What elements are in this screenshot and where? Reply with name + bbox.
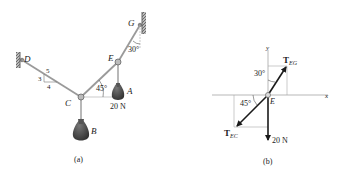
ring-e	[115, 59, 121, 65]
cable-dc	[22, 60, 81, 97]
weight-a-value: 20 N	[110, 102, 126, 111]
x-axis-label: x	[324, 92, 329, 100]
slope-rise-label: 3	[38, 75, 42, 83]
wall-g-support	[138, 12, 146, 34]
force-t-eg-label: TEG	[283, 55, 298, 66]
label-a: A	[126, 86, 133, 96]
angle-ec-b-label: 45°	[240, 99, 251, 108]
caption-a: (a)	[74, 155, 83, 164]
weight-b	[73, 118, 89, 141]
label-e: E	[107, 53, 114, 63]
ring-c	[78, 94, 84, 100]
force-weight-label: 20 N	[272, 136, 288, 145]
weight-a	[112, 82, 124, 100]
angle-ce-label: 45°	[96, 84, 107, 93]
slope-triangle: 5 3 4	[38, 67, 57, 91]
figure-b: x y 30° 45° E TEG TEC 20 N (b)	[212, 44, 329, 166]
origin-label: E	[269, 97, 275, 106]
figure-a: 5 3 4 30° 45° D C E G A B 20 N	[16, 12, 146, 164]
label-b: B	[91, 126, 97, 136]
angle-eg-label: 30°	[128, 45, 139, 54]
diagram-canvas: 5 3 4 30° 45° D C E G A B 20 N	[0, 0, 344, 179]
label-d: D	[23, 54, 31, 64]
y-axis-label: y	[265, 44, 270, 52]
angle-eg-b-label: 30°	[254, 69, 265, 78]
slope-run-label: 4	[47, 83, 51, 91]
caption-b: (b)	[263, 157, 273, 166]
force-t-ec-label: TEC	[224, 128, 239, 139]
slope-hyp-label: 5	[46, 67, 50, 75]
label-c: C	[65, 98, 72, 108]
label-g: G	[128, 18, 135, 28]
